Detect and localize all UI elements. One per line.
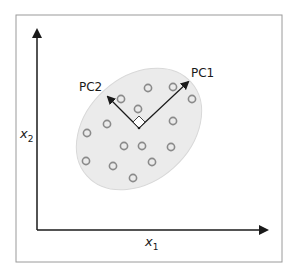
pc1-label: PC1 [191,66,214,80]
pc2-label: PC2 [79,80,102,94]
mean-point [138,127,141,130]
pca-diagram: PC1 PC2 x2 x1 [0,0,295,278]
